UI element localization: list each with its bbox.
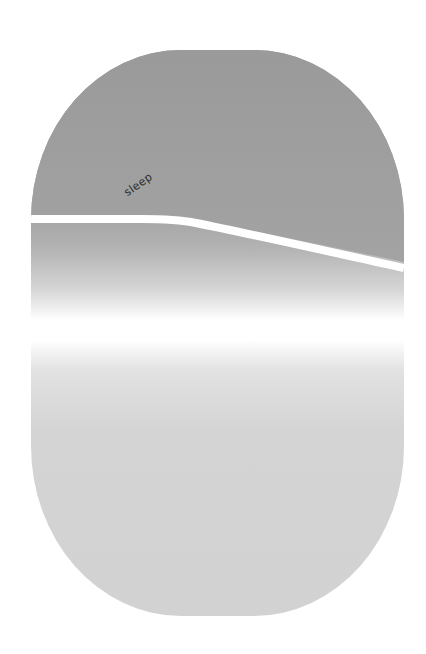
canvas: sleep xyxy=(0,0,426,654)
sleep-capsule: sleep xyxy=(31,50,404,616)
sleep-curve xyxy=(31,50,404,616)
